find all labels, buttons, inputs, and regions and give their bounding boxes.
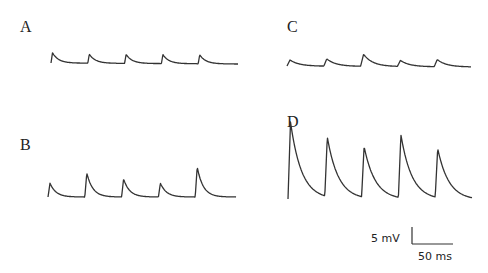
trace-b [48, 168, 236, 197]
scale-bar [412, 227, 453, 244]
scale-bar-time-label: 50 ms [418, 250, 452, 263]
trace-c [287, 55, 471, 67]
trace-d [288, 122, 472, 199]
scale-bar-voltage-label: 5 mV [371, 232, 400, 245]
traces-canvas [0, 0, 488, 273]
trace-a [51, 53, 238, 64]
